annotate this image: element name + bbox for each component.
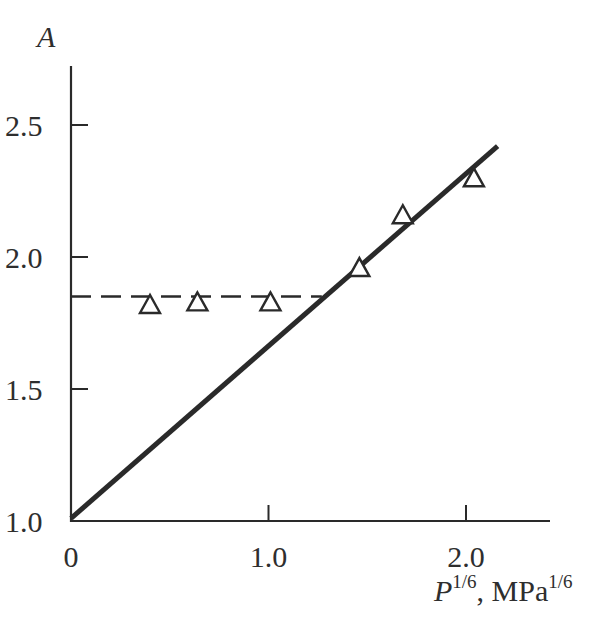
x-tick-label: 1.0 [250,540,288,573]
x-axis-var: P [433,574,452,607]
x-axis-unit: , MPa [477,574,549,607]
y-tick-label: 2.0 [5,241,43,274]
y-axis-title: A [35,20,56,53]
y-ticks: 1.01.52.02.5 [5,109,88,538]
plot-lines [71,146,498,518]
x-ticks: 01.02.0 [64,505,485,573]
triangle-marker-icon [260,292,280,310]
x-tick-label: 0 [64,540,79,573]
y-tick-label: 2.5 [5,109,43,142]
y-tick-label: 1.5 [5,373,43,406]
fit-line [71,146,498,518]
triangle-marker-icon [393,205,413,223]
chart: 1.01.52.02.5 01.02.0 A P1/6, MPa1/6 [0,0,595,622]
triangle-marker-icon [187,292,207,310]
x-axis-unit-sup: 1/6 [548,571,572,592]
x-tick-label: 2.0 [447,540,485,573]
data-markers [140,168,484,313]
y-tick-label: 1.0 [5,505,43,538]
x-axis-var-sup: 1/6 [452,571,476,592]
x-axis-title: P1/6, MPa1/6 [433,571,573,607]
